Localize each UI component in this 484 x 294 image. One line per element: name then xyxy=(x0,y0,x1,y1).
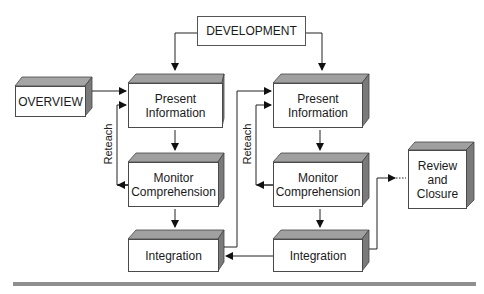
integration-left-label: Integration xyxy=(145,249,202,263)
present-information-box-left: Present Information xyxy=(128,83,223,128)
integration-right-label: Integration xyxy=(290,249,347,263)
overview-label: OVERVIEW xyxy=(18,95,82,109)
review-line2: and xyxy=(427,173,447,187)
integration-box-left: Integration xyxy=(128,239,219,272)
present-right-line2: Information xyxy=(288,106,348,120)
monitor-left-line2: Comprehension xyxy=(131,185,216,199)
review-closure-box: Review and Closure xyxy=(408,150,467,209)
overview-box: OVERVIEW xyxy=(15,86,86,117)
present-left-line1: Present xyxy=(155,92,196,106)
development-box: DEVELOPMENT xyxy=(197,16,306,46)
present-left-line2: Information xyxy=(145,106,205,120)
review-line3: Closure xyxy=(417,187,458,201)
integration-box-right: Integration xyxy=(273,239,363,272)
monitor-comprehension-box-left: Monitor Comprehension xyxy=(128,162,219,207)
present-information-box-right: Present Information xyxy=(273,83,363,128)
monitor-right-line1: Monitor xyxy=(298,171,338,185)
monitor-comprehension-box-right: Monitor Comprehension xyxy=(273,162,363,207)
reteach-label-right: Reteach xyxy=(241,119,253,169)
monitor-left-line1: Monitor xyxy=(153,171,193,185)
review-line1: Review xyxy=(418,159,457,173)
bottom-rule xyxy=(13,282,476,286)
reteach-label-left: Reteach xyxy=(102,119,114,169)
monitor-right-line2: Comprehension xyxy=(276,185,361,199)
present-right-line1: Present xyxy=(297,92,338,106)
development-label: DEVELOPMENT xyxy=(206,24,297,38)
